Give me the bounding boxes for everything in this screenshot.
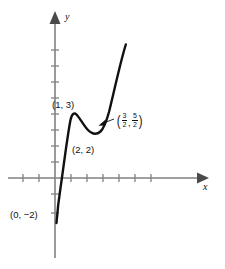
fraction-x: 3 2 xyxy=(122,112,128,128)
fraction-x-denominator: 2 xyxy=(122,120,128,129)
y-axis-arrowhead xyxy=(50,11,61,24)
function-curve xyxy=(57,45,126,224)
x-axis-label: x xyxy=(203,182,207,192)
open-paren: ( xyxy=(117,113,121,128)
fraction-y-denominator: 2 xyxy=(132,120,138,129)
plot-canvas xyxy=(0,0,225,269)
label-y-intercept: (0, −2) xyxy=(10,210,38,220)
graph-figure: (1, 3) (2, 2) (0, −2) ( 3 2 , 5 2 ) y x xyxy=(0,0,225,269)
y-axis-label: y xyxy=(65,12,69,22)
fraction-point-group: ( 3 2 , 5 2 ) xyxy=(116,112,143,128)
fraction-comma: , xyxy=(128,118,131,129)
label-inflection-point: (2, 2) xyxy=(72,145,94,155)
leader-arrowhead xyxy=(99,120,106,126)
close-paren: ) xyxy=(139,113,143,128)
label-local-maximum: (1, 3) xyxy=(52,100,74,110)
fraction-y: 5 2 xyxy=(132,112,138,128)
fraction-y-numerator: 5 xyxy=(132,112,138,120)
label-local-minimum: ( 3 2 , 5 2 ) xyxy=(116,112,143,128)
fraction-x-numerator: 3 xyxy=(122,112,128,120)
